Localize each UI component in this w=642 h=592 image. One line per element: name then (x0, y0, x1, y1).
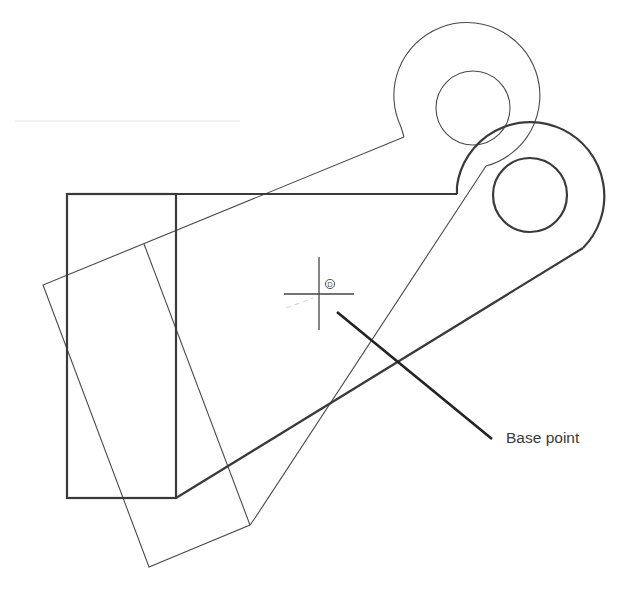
cad-drawing-canvas: D (0, 0, 642, 592)
base-point-crosshair (284, 257, 354, 330)
original-lug-outer-arc (457, 122, 604, 248)
original-rect-left-block (67, 194, 176, 498)
rubber-band-trace (286, 298, 313, 308)
rotated-rect-outline (43, 137, 404, 567)
rotated-copy (43, 23, 540, 567)
rotated-long-edge (255, 166, 486, 518)
original-lug-hole (493, 158, 567, 232)
snap-marker-glyph: D (327, 280, 333, 289)
base-point-label: Base point (506, 429, 579, 447)
rotated-lug-hole (436, 71, 510, 145)
rotated-arc-connector (401, 127, 404, 137)
rotated-rect-inner-edge (144, 244, 250, 525)
annotation-leader-line (337, 312, 492, 439)
original-lower-edge (176, 248, 583, 498)
snap-marker-icon: D (325, 279, 334, 289)
